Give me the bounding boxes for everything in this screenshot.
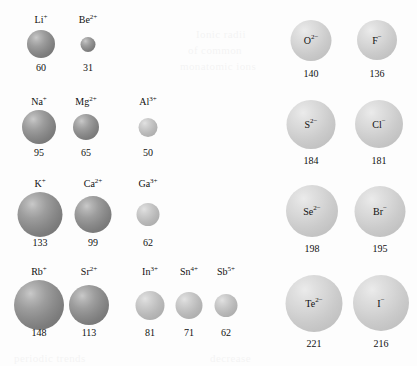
- ion-symbol-se-anion: Se2−: [303, 206, 320, 217]
- ion-radius-value-li-cation: 60: [36, 62, 46, 73]
- ion-sphere-te-anion: Te2−: [286, 275, 343, 332]
- ion-radius-value-mg-cation: 65: [81, 147, 91, 158]
- ion-radius-value-ca-cation: 99: [88, 237, 98, 248]
- ion-symbol-mg-cation: Mg2+: [75, 96, 96, 107]
- ion-radius-value-sn-cation: 71: [184, 327, 194, 338]
- ion-radius-value-sb-cation: 62: [221, 327, 231, 338]
- ion-symbol-ca-cation: Ca2+: [84, 178, 103, 189]
- ion-radius-value-k-cation: 133: [33, 237, 48, 248]
- ion-symbol-cl-anion: Cl−: [372, 119, 385, 130]
- ion-sphere-rb-cation: [14, 280, 64, 330]
- bleed-text: Ionic radii: [196, 28, 246, 40]
- ion-symbol-li-cation: Li+: [35, 14, 48, 25]
- ionic-radii-figure: Ionic radiiof commonmonatomic ionsperiod…: [0, 0, 417, 366]
- ion-radius-value-br-anion: 195: [373, 243, 388, 254]
- ion-radius-value-ga-cation: 62: [143, 237, 153, 248]
- ion-sphere-in-cation: [136, 291, 165, 320]
- ion-radius-value-s-anion: 184: [304, 155, 319, 166]
- ion-symbol-te-anion: Te2−: [305, 298, 322, 309]
- ion-symbol-al-cation: Al3+: [139, 96, 156, 107]
- ion-sphere-mg-cation: [73, 114, 99, 140]
- ion-symbol-na-cation: Na+: [31, 96, 47, 107]
- ion-symbol-i-anion: I−: [377, 298, 384, 309]
- ion-radius-value-al-cation: 50: [143, 147, 153, 158]
- ion-sphere-sr-cation: [69, 285, 109, 325]
- ion-radius-value-sr-cation: 113: [82, 327, 97, 338]
- ion-radius-value-be-cation: 31: [83, 62, 93, 73]
- ion-radius-value-rb-cation: 148: [32, 327, 47, 338]
- ion-sphere-i-anion: I−: [353, 275, 409, 331]
- ion-radius-value-i-anion: 216: [374, 338, 389, 349]
- ion-sphere-sb-cation: [215, 294, 238, 317]
- ion-symbol-br-anion: Br−: [373, 206, 387, 217]
- ion-symbol-sr-cation: Sr2+: [81, 266, 97, 277]
- ion-sphere-sn-cation: [176, 292, 203, 319]
- ion-sphere-s-anion: S2−: [287, 100, 336, 149]
- ion-radius-value-in-cation: 81: [145, 327, 155, 338]
- ion-sphere-br-anion: Br−: [355, 186, 406, 237]
- ion-sphere-ca-cation: [75, 196, 112, 233]
- ion-sphere-ga-cation: [137, 203, 160, 226]
- ion-sphere-li-cation: [27, 30, 55, 58]
- ion-radius-value-te-anion: 221: [307, 338, 322, 349]
- ion-symbol-sb-cation: Sb5+: [217, 266, 235, 277]
- ion-symbol-f-anion: F−: [372, 35, 382, 46]
- ion-sphere-o-anion: O2−: [291, 20, 332, 61]
- ion-sphere-se-anion: Se2−: [286, 185, 338, 237]
- ion-symbol-sn-cation: Sn4+: [180, 266, 198, 277]
- ion-symbol-be-cation: Be2+: [79, 14, 98, 25]
- ion-symbol-in-cation: In3+: [142, 266, 158, 277]
- bleed-text: of common: [188, 44, 242, 56]
- ion-symbol-s-anion: S2−: [304, 119, 317, 130]
- ion-radius-value-o-anion: 140: [304, 68, 319, 79]
- ion-sphere-k-cation: [18, 192, 63, 237]
- ion-radius-value-se-anion: 198: [305, 243, 320, 254]
- ion-radius-value-f-anion: 136: [370, 68, 385, 79]
- ion-symbol-o-anion: O2−: [304, 35, 319, 46]
- ion-sphere-f-anion: F−: [357, 20, 397, 60]
- ion-radius-value-na-cation: 95: [34, 147, 44, 158]
- ion-symbol-ga-cation: Ga3+: [138, 178, 157, 189]
- bleed-text: decrease: [210, 352, 251, 364]
- ion-sphere-be-cation: [81, 37, 96, 52]
- bleed-text: monatomic ions: [180, 60, 256, 72]
- ion-sphere-cl-anion: Cl−: [355, 100, 403, 148]
- ion-radius-value-cl-anion: 181: [372, 155, 387, 166]
- bleed-text: periodic trends: [14, 352, 86, 364]
- ion-sphere-al-cation: [139, 118, 158, 137]
- ion-symbol-rb-cation: Rb+: [31, 266, 47, 277]
- ion-symbol-k-cation: K+: [34, 178, 45, 189]
- ion-sphere-na-cation: [22, 110, 56, 144]
